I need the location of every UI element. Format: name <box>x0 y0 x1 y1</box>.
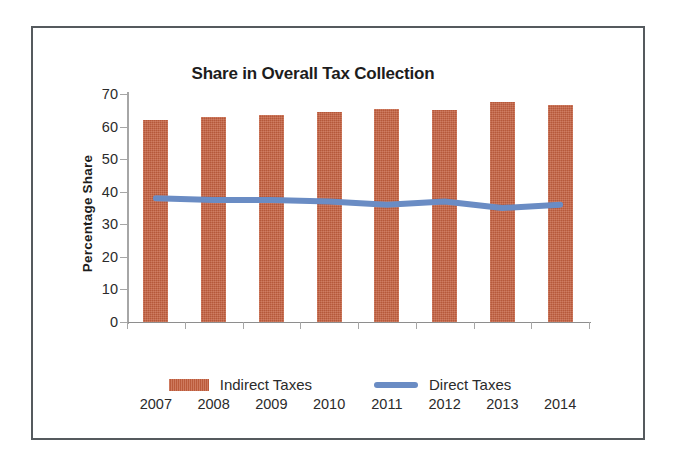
y-tick-mark <box>120 127 127 128</box>
y-tick-label: 50 <box>102 151 118 167</box>
chart-figure: Share in Overall Tax Collection Percenta… <box>33 28 647 442</box>
chart-legend: Indirect Taxes Direct Taxes <box>33 376 647 393</box>
legend-line-swatch-icon <box>374 382 418 388</box>
y-tick-mark <box>120 322 127 323</box>
chart-page-frame: Share in Overall Tax Collection Percenta… <box>31 26 645 440</box>
x-tick-mark <box>185 322 186 329</box>
chart-title: Share in Overall Tax Collection <box>128 64 498 84</box>
y-tick-label: 30 <box>102 216 118 232</box>
x-tick-label: 2009 <box>255 396 287 412</box>
x-tick-mark <box>127 322 128 329</box>
x-tick-label: 2010 <box>313 396 345 412</box>
line-series-direct-taxes <box>127 94 589 322</box>
legend-item-direct-taxes: Direct Taxes <box>374 376 511 393</box>
plot-area: 706050403020100 200720082009201020112012… <box>127 94 589 322</box>
x-tick-mark <box>416 322 417 329</box>
x-tick-label: 2013 <box>486 396 518 412</box>
y-tick-mark <box>120 192 127 193</box>
legend-label-indirect-taxes: Indirect Taxes <box>220 376 312 393</box>
x-tick-mark <box>531 322 532 329</box>
y-tick-mark <box>120 94 127 95</box>
y-tick-label: 40 <box>102 184 118 200</box>
legend-bar-swatch-icon <box>169 379 209 391</box>
y-tick-mark <box>120 289 127 290</box>
y-tick-label: 10 <box>102 281 118 297</box>
y-tick-label: 70 <box>102 86 118 102</box>
x-tick-label: 2014 <box>544 396 576 412</box>
x-tick-label: 2007 <box>140 396 172 412</box>
y-axis-title: Percentage Share <box>80 124 95 304</box>
legend-item-indirect-taxes: Indirect Taxes <box>169 376 312 393</box>
y-tick-mark <box>120 159 127 160</box>
x-tick-mark <box>474 322 475 329</box>
x-tick-mark <box>300 322 301 329</box>
x-tick-mark <box>589 322 590 329</box>
x-tick-label: 2011 <box>371 396 402 412</box>
y-tick-label: 60 <box>102 119 118 135</box>
x-tick-label: 2012 <box>428 396 460 412</box>
x-tick-label: 2008 <box>197 396 229 412</box>
y-tick-mark <box>120 224 127 225</box>
y-tick-label: 0 <box>110 314 118 330</box>
x-tick-mark <box>243 322 244 329</box>
legend-label-direct-taxes: Direct Taxes <box>429 376 511 393</box>
x-tick-mark <box>358 322 359 329</box>
y-tick-label: 20 <box>102 249 118 265</box>
y-tick-mark <box>120 257 127 258</box>
